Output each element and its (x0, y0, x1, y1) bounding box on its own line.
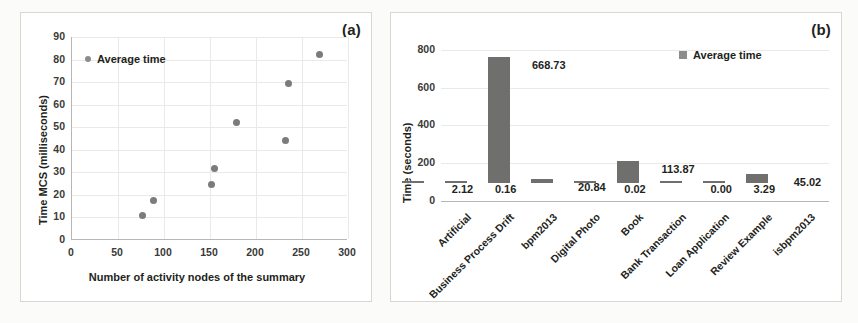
bar-y-tick: 200 (397, 156, 435, 168)
scatter-x-tick: 150 (189, 246, 229, 258)
scatter-x-tick: 200 (235, 246, 275, 258)
scatter-point (282, 137, 289, 144)
gridline-vertical (302, 37, 303, 239)
gridline-vertical (348, 37, 349, 239)
bar (617, 161, 639, 183)
scatter-y-tick: 40 (31, 143, 65, 155)
bar-y-tick: 600 (397, 81, 435, 93)
bar-value-label: 45.02 (777, 176, 837, 188)
legend-swatch-icon (679, 51, 687, 59)
bar-y-tick: 0 (397, 194, 435, 206)
scatter-x-tick: 100 (143, 246, 183, 258)
gridline-vertical (118, 37, 119, 239)
bar (703, 181, 725, 184)
gridline-horizontal (441, 201, 829, 202)
scatter-x-axis-title: Number of activity nodes of the summary (21, 271, 373, 283)
bar (660, 181, 682, 184)
bar (488, 57, 510, 183)
scatter-point (211, 165, 218, 172)
scatter-y-tick: 10 (31, 210, 65, 222)
scatter-y-tick: 60 (31, 98, 65, 110)
scatter-point (316, 51, 323, 58)
gridline-vertical (164, 37, 165, 239)
scatter-point (233, 119, 240, 126)
scatter-y-tick: 20 (31, 188, 65, 200)
legend-marker-icon (85, 56, 91, 62)
bar-legend: Average time (679, 49, 762, 61)
bar (574, 181, 596, 184)
scatter-y-tick: 90 (31, 30, 65, 42)
scatter-point (285, 80, 292, 87)
bar (746, 174, 768, 183)
scatter-y-tick: 80 (31, 53, 65, 65)
scatter-point (208, 181, 215, 188)
gridline-vertical (210, 37, 211, 239)
scatter-point (150, 197, 157, 204)
bar (445, 181, 467, 184)
bar-category-label: Business Process Drift (423, 211, 516, 304)
bar-value-label: 668.73 (519, 59, 579, 71)
panel-a-scatter-chart: (a) Time MCS (milliseconds) Number of ac… (20, 12, 372, 302)
legend-label: Average time (693, 49, 762, 61)
bar (531, 179, 553, 183)
scatter-plot-area (71, 37, 347, 240)
scatter-y-tick: 0 (31, 233, 65, 245)
bar-value-label: 0.16 (476, 183, 536, 195)
bar-category-label: isbpm2013 (724, 211, 817, 304)
legend-label: Average time (97, 53, 166, 65)
scatter-y-tick: 70 (31, 75, 65, 87)
scatter-x-tick: 300 (327, 246, 367, 258)
scatter-y-tick: 50 (31, 120, 65, 132)
gridline-vertical (256, 37, 257, 239)
figure-container: (a) Time MCS (milliseconds) Number of ac… (0, 0, 858, 323)
bar-value-label: 0.02 (605, 183, 665, 195)
bar-category-label: bpm2013 (466, 211, 559, 304)
bar (402, 181, 424, 184)
gridline-horizontal (441, 50, 829, 51)
scatter-x-tick: 250 (281, 246, 321, 258)
bar-y-tick: 400 (397, 118, 435, 130)
panel-b-bar-chart: (b) Time (seconds) 0200400600800 2.120.1… (390, 12, 842, 302)
scatter-legend: Average time (85, 53, 166, 65)
bar-value-label: 113.87 (648, 163, 708, 175)
bar-y-tick: 800 (397, 43, 435, 55)
scatter-y-tick: 30 (31, 165, 65, 177)
bar-category-label: Artificial (379, 211, 472, 304)
scatter-y-axis-title: Time MCS (milliseconds) (37, 95, 49, 225)
scatter-x-tick: 0 (51, 246, 91, 258)
panel-a-label: (a) (342, 21, 361, 38)
scatter-x-tick: 50 (97, 246, 137, 258)
